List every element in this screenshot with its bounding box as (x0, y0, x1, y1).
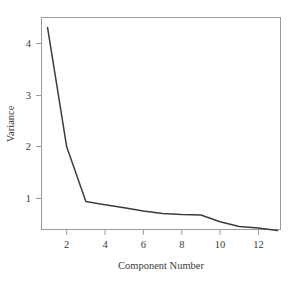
x-tick-label-10: 10 (215, 239, 226, 250)
plot-frame (42, 18, 281, 230)
y-axis-title: Variance (5, 105, 16, 142)
x-tick-label-8: 8 (179, 239, 184, 250)
scree-plot-figure: 1 2 3 4 2 4 6 8 10 12 Component Number V… (0, 0, 301, 286)
x-tick-label-4: 4 (102, 239, 108, 250)
y-tick-label-2: 2 (26, 141, 31, 152)
x-axis-tick-labels: 2 4 6 8 10 12 (64, 239, 264, 250)
y-tick-label-4: 4 (26, 38, 32, 49)
x-axis-title: Component Number (118, 260, 205, 271)
chart-canvas: 1 2 3 4 2 4 6 8 10 12 Component Number V… (0, 0, 301, 286)
y-tick-label-3: 3 (26, 90, 31, 101)
x-axis-ticks (67, 230, 259, 236)
y-axis-ticks (36, 44, 42, 199)
x-tick-label-2: 2 (64, 239, 69, 250)
x-tick-label-6: 6 (141, 239, 146, 250)
variance-line (48, 27, 278, 230)
y-tick-label-1: 1 (26, 193, 31, 204)
x-tick-label-12: 12 (253, 239, 264, 250)
y-axis-tick-labels: 1 2 3 4 (26, 38, 32, 204)
